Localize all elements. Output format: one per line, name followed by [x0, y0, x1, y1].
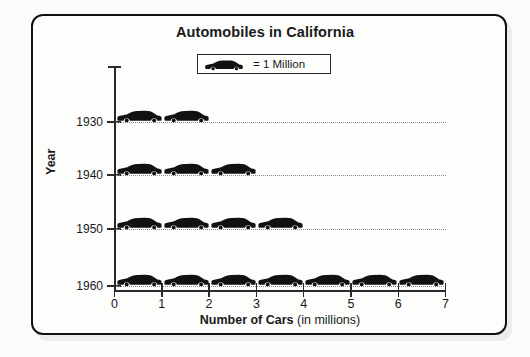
x-tick-label: 4 — [300, 297, 307, 311]
y-tick-label: 1940 — [65, 168, 103, 182]
car-icon — [257, 272, 304, 287]
car-icon — [163, 215, 210, 230]
y-tick-label: 1930 — [65, 115, 103, 129]
car-icon — [163, 161, 210, 176]
x-tick-label: 7 — [442, 297, 449, 311]
car-icon — [210, 215, 257, 230]
x-tick-label: 2 — [206, 297, 213, 311]
car-icon — [116, 272, 163, 287]
x-tick — [445, 283, 447, 297]
x-tick-label: 1 — [158, 297, 165, 311]
car-icon — [210, 161, 257, 176]
car-icon — [116, 215, 163, 230]
y-axis-cap — [108, 66, 121, 68]
x-axis-title: Number of Cars (in millions) — [114, 313, 446, 327]
pictograph-row — [116, 214, 304, 230]
x-tick-label: 6 — [395, 297, 402, 311]
y-tick-label: 1950 — [65, 222, 103, 236]
pictograph-row — [116, 160, 257, 176]
x-tick-label: 0 — [111, 297, 118, 311]
car-icon — [257, 215, 304, 230]
y-axis-line — [114, 66, 116, 291]
plot-area: Year Number of Cars (in millions) 193019… — [0, 0, 530, 357]
pictograph-row — [116, 271, 445, 287]
car-icon — [163, 108, 210, 123]
y-tick-label: 1960 — [65, 279, 103, 293]
x-tick-label: 3 — [253, 297, 260, 311]
car-icon — [210, 272, 257, 287]
car-icon — [163, 272, 210, 287]
car-icon — [398, 272, 445, 287]
x-axis-title-rest: (in millions) — [294, 313, 361, 327]
x-tick-label: 5 — [348, 297, 355, 311]
chart-screenshot: Automobiles in California = 1 Million Ye… — [0, 0, 530, 357]
y-axis-title: Year — [44, 149, 58, 175]
x-axis-line — [114, 290, 446, 292]
car-icon — [351, 272, 398, 287]
pictograph-row — [116, 107, 210, 123]
car-icon — [304, 272, 351, 287]
x-axis-title-bold: Number of Cars — [200, 313, 294, 327]
car-icon — [116, 161, 163, 176]
car-icon — [116, 108, 163, 123]
